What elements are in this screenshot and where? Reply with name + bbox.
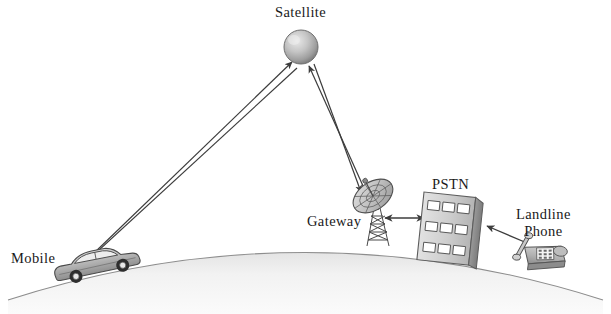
- pstn-windows: [423, 200, 470, 255]
- label-satellite: Satellite: [275, 4, 326, 21]
- pstn-building-icon: [417, 192, 484, 269]
- label-landline-line2: Phone: [516, 223, 571, 240]
- tower-lattice: [367, 208, 389, 246]
- phone-keypad: [535, 245, 556, 262]
- downlink-satellite-to-mobile: [86, 68, 297, 262]
- link-mobile-satellite: [86, 62, 297, 262]
- dish-antenna-icon: [344, 168, 399, 246]
- uplink-mobile-to-satellite: [92, 62, 292, 255]
- link-gateway-satellite: [309, 64, 368, 197]
- label-pstn: PSTN: [432, 176, 469, 193]
- label-landline-phone: Landline Phone: [516, 206, 571, 240]
- satellite-sphere-icon: [284, 30, 318, 64]
- label-landline-line1: Landline: [516, 206, 571, 222]
- diagram-canvas: [0, 0, 611, 314]
- downlink-satellite-to-gateway: [314, 64, 361, 192]
- label-gateway: Gateway: [307, 213, 361, 230]
- satellite-network-diagram: Satellite Gateway PSTN Mobile Landline P…: [0, 0, 611, 314]
- label-mobile: Mobile: [11, 250, 55, 267]
